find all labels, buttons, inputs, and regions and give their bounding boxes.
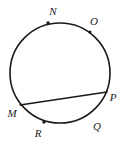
- figure-canvas: [0, 0, 128, 146]
- point-label-q: Q: [93, 121, 101, 132]
- chord-mp: [20, 92, 107, 105]
- point-label-m: M: [7, 108, 16, 119]
- point-marker-o: [89, 31, 92, 34]
- point-marker-n: [46, 21, 49, 24]
- point-label-o: O: [90, 16, 98, 27]
- point-label-n: N: [49, 6, 56, 17]
- point-label-p: P: [110, 92, 117, 103]
- geometry-figure: NOPQRM: [0, 0, 128, 146]
- point-marker-r: [42, 120, 45, 123]
- point-markers: [42, 21, 91, 123]
- main-circle: [10, 23, 110, 123]
- point-label-r: R: [35, 128, 42, 139]
